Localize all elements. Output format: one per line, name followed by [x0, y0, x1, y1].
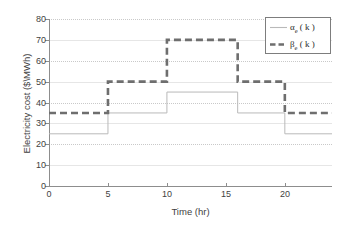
- y-tick-label-30: 30: [36, 119, 46, 128]
- legend-label-alpha: αe ( k ): [290, 21, 315, 37]
- legend-entry-alpha: αe ( k ): [266, 19, 332, 35]
- legend-entry-beta: βe ( k ): [266, 36, 332, 52]
- y-tick-label-20: 20: [36, 140, 46, 149]
- y-tick-label-10: 10: [36, 161, 46, 170]
- chart-figure: 01020304050607080 05101520 Electricity c…: [0, 0, 342, 235]
- y-tick-label-70: 70: [36, 36, 46, 45]
- x-axis-line: [49, 186, 332, 187]
- y-tick-label-80: 80: [36, 15, 46, 24]
- y-axis-label: Electricity cost ($\MWh): [21, 14, 32, 194]
- legend-sample-beta-icon: [270, 43, 287, 46]
- legend-sample-alpha-icon: [270, 26, 287, 29]
- y-tick-label-40: 40: [36, 99, 46, 108]
- x-tick-label-15: 15: [214, 190, 238, 199]
- y-tick-label-60: 60: [36, 57, 46, 66]
- x-tick-label-0: 0: [37, 190, 61, 199]
- x-tick-label-20: 20: [273, 190, 297, 199]
- legend-box: αe ( k ) βe ( k ): [265, 17, 331, 54]
- x-tick-label-10: 10: [155, 190, 179, 199]
- y-tick-label-50: 50: [36, 78, 46, 87]
- x-tick-label-5: 5: [96, 190, 120, 199]
- legend-label-beta: βe ( k ): [290, 38, 315, 54]
- x-axis-label: Time (hr): [49, 206, 332, 217]
